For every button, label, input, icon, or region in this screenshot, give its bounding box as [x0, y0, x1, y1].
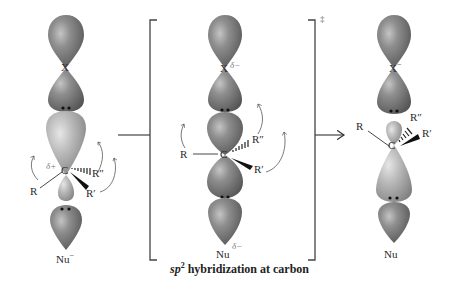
- motion-arrow: [181, 124, 185, 148]
- substituent-r-label: R: [356, 121, 363, 132]
- partial-charge-label: δ−: [232, 241, 242, 251]
- electron-pair-dot: [226, 108, 229, 111]
- electron-pair-dot: [388, 196, 391, 199]
- nucleophile-label: Nu: [216, 249, 229, 260]
- substituent-r-prime-label: R′: [422, 128, 432, 139]
- nucleophile-label: Nu: [384, 249, 397, 260]
- substituent-r-prime-label: R′: [86, 188, 96, 199]
- central-carbon-label: C: [220, 149, 227, 160]
- leaving-group-label: X−: [389, 63, 401, 74]
- substituent-r-label: R: [180, 149, 187, 160]
- product: [368, 15, 420, 243]
- transition-state: [181, 15, 285, 245]
- motion-arrow: [266, 132, 285, 172]
- transition-state-caption: sp2 hybridization at carbon: [170, 262, 309, 277]
- electron-pair-dot: [67, 106, 70, 109]
- leaving-group-label: X: [61, 62, 69, 73]
- electron-pair-dot: [395, 109, 398, 112]
- right-bracket: [308, 20, 315, 260]
- leaving-group-label: X: [220, 63, 228, 74]
- orbital-lobe: [376, 145, 412, 202]
- substituent-r-double-prime-label: R″: [252, 134, 264, 145]
- left-bracket: [150, 20, 157, 260]
- motion-arrow: [31, 156, 38, 180]
- electron-pair-dot: [220, 108, 223, 111]
- nucleophile-label: Nu−: [56, 254, 74, 265]
- central-carbon-label: C: [388, 140, 395, 151]
- orbital-lobe: [208, 68, 242, 112]
- reactant: [31, 15, 115, 250]
- electron-pair-dot: [60, 207, 63, 210]
- electron-pair-dot: [395, 196, 398, 199]
- partial-charge-label: δ+: [46, 161, 56, 171]
- orbital-lobe: [377, 15, 411, 68]
- motion-arrow: [258, 104, 263, 134]
- orbital-lobe: [58, 175, 74, 201]
- central-carbon-label: C: [61, 165, 68, 176]
- substituent-r-prime-label: R′: [254, 164, 264, 175]
- electron-pair-dot: [389, 109, 392, 112]
- electron-pair-dot: [61, 106, 64, 109]
- bond-r: [40, 172, 62, 188]
- substituent-r-double-prime-label: R″: [410, 112, 422, 123]
- electron-pair-dot: [67, 207, 70, 210]
- partial-charge-label: δ−: [230, 60, 240, 70]
- orbital-lobe: [377, 68, 411, 114]
- hashed-bond-r-double-prime: [72, 168, 90, 175]
- orbital-lobe: [48, 68, 84, 112]
- orbital-lobe: [50, 205, 82, 250]
- substituent-r-label: R: [30, 186, 37, 197]
- orbital-lobe: [378, 202, 410, 243]
- substituent-r-double-prime-label: R″: [92, 168, 104, 179]
- bond-r: [368, 131, 389, 146]
- transition-state-symbol: ‡: [320, 14, 325, 24]
- orbital-lobe: [208, 198, 242, 245]
